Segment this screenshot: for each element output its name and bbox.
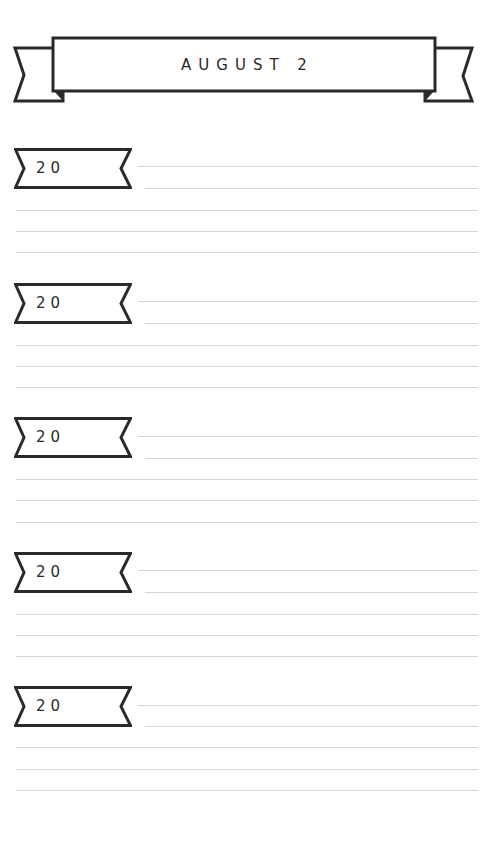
writing-line[interactable]: [16, 522, 478, 523]
year-label: 20: [36, 686, 65, 727]
writing-line[interactable]: [16, 345, 478, 346]
writing-line[interactable]: [16, 747, 478, 748]
writing-line[interactable]: [16, 387, 478, 388]
year-badge: 20: [14, 283, 132, 324]
writing-line[interactable]: [145, 726, 478, 727]
year-entry: 20: [0, 283, 502, 403]
writing-line[interactable]: [145, 458, 478, 459]
writing-line[interactable]: [145, 592, 478, 593]
year-label: 20: [36, 283, 65, 324]
ribbon-tag-icon: [14, 686, 132, 727]
writing-line[interactable]: [138, 166, 478, 167]
writing-line[interactable]: [138, 570, 478, 571]
year-badge: 20: [14, 552, 132, 593]
year-entry: 20: [0, 148, 502, 268]
ribbon-tag-icon: [14, 552, 132, 593]
writing-line[interactable]: [16, 252, 478, 253]
writing-line[interactable]: [16, 614, 478, 615]
ribbon-tag-icon: [14, 283, 132, 324]
ribbon-tag-icon: [14, 417, 132, 458]
year-badge: 20: [14, 148, 132, 189]
year-label: 20: [36, 417, 65, 458]
year-label: 20: [36, 552, 65, 593]
year-entry: 20: [0, 417, 502, 537]
writing-line[interactable]: [145, 188, 478, 189]
page-title: AUGUST 2: [53, 38, 435, 91]
writing-line[interactable]: [138, 705, 478, 706]
writing-line[interactable]: [16, 635, 478, 636]
writing-line[interactable]: [138, 301, 478, 302]
year-badge: 20: [14, 417, 132, 458]
year-badge: 20: [14, 686, 132, 727]
year-label: 20: [36, 148, 65, 189]
writing-line[interactable]: [16, 479, 478, 480]
writing-line[interactable]: [16, 231, 478, 232]
writing-line[interactable]: [16, 769, 478, 770]
writing-line[interactable]: [16, 210, 478, 211]
writing-line[interactable]: [16, 366, 478, 367]
writing-line[interactable]: [145, 323, 478, 324]
date-banner: AUGUST 2: [0, 0, 502, 110]
ribbon-tag-icon: [14, 148, 132, 189]
year-entry: 20: [0, 552, 502, 672]
writing-line[interactable]: [16, 656, 478, 657]
year-entry: 20: [0, 686, 502, 806]
writing-line[interactable]: [16, 790, 478, 791]
writing-line[interactable]: [138, 436, 478, 437]
writing-line[interactable]: [16, 500, 478, 501]
